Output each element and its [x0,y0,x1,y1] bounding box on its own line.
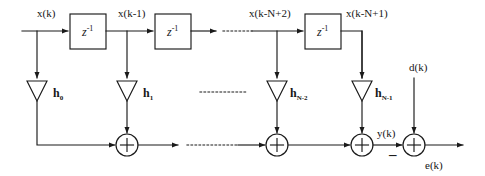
h0-to-adder1 [37,101,115,145]
delay-1-exponent: -1 [87,24,94,33]
label-coef-h1: h1 [143,87,153,102]
coef-h1-sub: 1 [150,94,154,102]
label-coef-hn1: hN-1 [375,87,393,102]
delay-block-1-label: z-1 [82,25,93,38]
tap-n1-branch [341,31,362,78]
coef-hn1-base: h [375,86,382,100]
coef-hn2-base: h [290,86,297,100]
label-tap-xkn1: x(k-N+1) [346,8,388,19]
label-coef-h0: h0 [53,87,63,102]
label-minus-sign: – [389,147,397,162]
gain-triangle-h1 [117,81,137,101]
delay-3-exponent: -1 [322,24,329,33]
gain-triangle-hn2 [267,81,287,101]
delay-block-2-label: z-1 [167,25,178,38]
label-tap-xkn2: x(k-N+2) [249,8,291,19]
delay-2-exponent: -1 [172,24,179,33]
filter-diagram: x(k) x(k-1) x(k-N+2) x(k-N+1) d(k) y(k) … [0,0,485,176]
diagram-canvas [0,0,485,176]
coef-h1-base: h [143,86,150,100]
gain-triangle-h0 [27,81,47,101]
delay-block-3-label: z-1 [317,25,328,38]
label-input-xk: x(k) [37,8,55,19]
label-tap-xk1: x(k-1) [118,8,146,19]
coef-h0-base: h [53,86,60,100]
coef-hn2-sub: N-2 [297,94,308,102]
label-error-ek: e(k) [425,160,443,171]
gain-triangle-hn1 [352,81,372,101]
label-output-yk: y(k) [377,128,395,139]
label-desired-dk: d(k) [409,62,427,73]
coef-h0-sub: 0 [60,94,64,102]
coef-hn1-sub: N-1 [382,94,393,102]
label-coef-hn2: hN-2 [290,87,308,102]
